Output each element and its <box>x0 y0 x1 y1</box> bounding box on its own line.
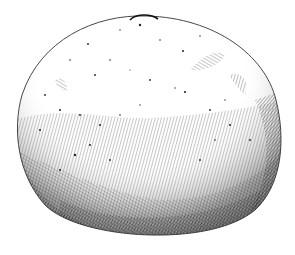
orange-drawing <box>0 0 295 255</box>
fruit-illustration <box>0 0 295 255</box>
fruit-body <box>0 0 295 255</box>
